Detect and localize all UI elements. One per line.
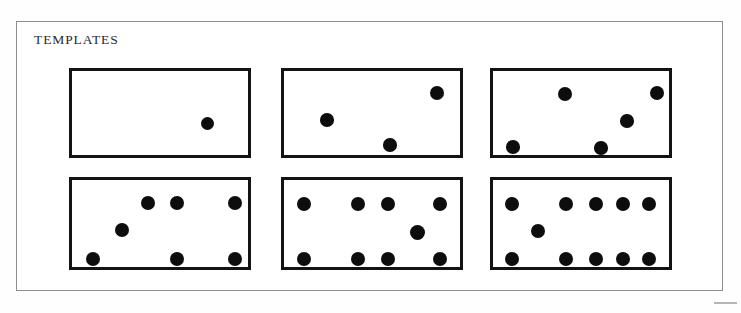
dot-marker (650, 86, 664, 100)
template-card-5-dots[interactable] (490, 68, 672, 158)
dot-marker (228, 252, 242, 266)
template-card-11-dots[interactable] (490, 177, 672, 270)
dot-marker (594, 141, 608, 155)
dot-marker (381, 252, 395, 266)
dot-marker (506, 140, 520, 154)
dot-marker (297, 197, 311, 211)
dot-marker (351, 197, 365, 211)
dot-marker (559, 252, 573, 266)
dot-marker (351, 252, 365, 266)
dot-marker (141, 196, 155, 210)
dot-marker (228, 196, 242, 210)
page-root: TEMPLATES (0, 0, 741, 313)
dot-marker (430, 86, 444, 100)
dot-marker (297, 252, 311, 266)
dot-marker (620, 114, 634, 128)
dot-marker (201, 117, 214, 130)
dot-marker (170, 196, 184, 210)
dot-marker (642, 197, 656, 211)
dot-marker (115, 223, 129, 237)
dot-marker (616, 197, 630, 211)
dot-marker (616, 252, 630, 266)
dot-marker (642, 252, 656, 266)
dot-marker (558, 87, 572, 101)
template-card-1-dot[interactable] (69, 68, 251, 158)
dot-marker (505, 197, 519, 211)
template-card-grid (0, 0, 741, 313)
dot-marker (86, 252, 100, 266)
dot-marker (589, 252, 603, 266)
template-card-7-dots[interactable] (69, 177, 251, 270)
template-card-3-dots[interactable] (281, 68, 463, 158)
dot-marker (170, 252, 184, 266)
dot-marker (589, 197, 603, 211)
dot-marker (433, 252, 447, 266)
dot-marker (559, 197, 573, 211)
dot-marker (531, 224, 545, 238)
dot-marker (381, 197, 395, 211)
dot-marker (505, 252, 519, 266)
template-card-9-dots[interactable] (281, 177, 463, 270)
dot-marker (433, 197, 447, 211)
dot-marker (383, 138, 397, 152)
scan-artifact-mark (714, 302, 737, 304)
dot-marker (320, 113, 334, 127)
dot-marker (410, 225, 425, 240)
